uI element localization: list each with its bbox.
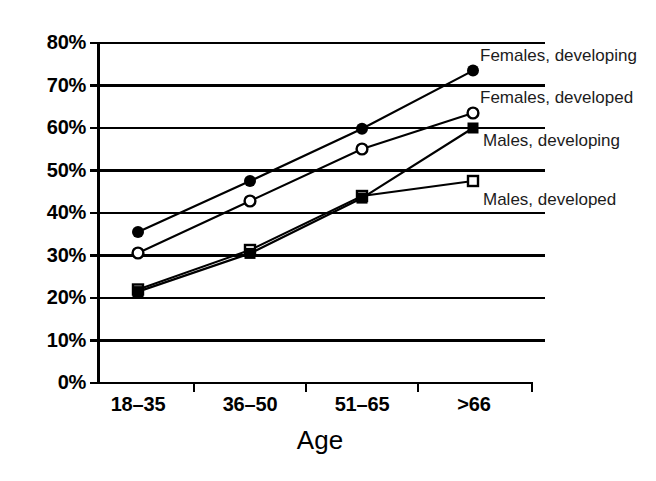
marker-filled-square: [133, 286, 144, 297]
marker-open-square: [468, 176, 478, 186]
series-label-females-developing: Females, developing: [480, 46, 637, 66]
marker-filled-square: [357, 193, 368, 204]
y-tick-label-20: 20%: [10, 286, 86, 309]
y-tick-label-0: 0%: [10, 371, 86, 394]
series-label-females-developed: Females, developed: [480, 88, 633, 108]
y-tick-label-60: 60%: [10, 116, 86, 139]
marker-filled-circle: [244, 175, 256, 187]
marker-open-circle: [468, 108, 479, 119]
marker-open-circle: [357, 144, 368, 155]
y-tick-label-80: 80%: [10, 31, 86, 54]
x-tick-marks: [194, 383, 418, 392]
marker-open-circle: [245, 196, 256, 207]
y-tick-label-40: 40%: [10, 201, 86, 224]
marker-open-circle: [133, 248, 144, 259]
y-tick-label-10: 10%: [10, 329, 86, 352]
x-tick-label-51-65: 51–65: [312, 393, 412, 416]
series-label-males-developing: Males, developing: [483, 131, 620, 151]
x-tick-label-18-35: 18–35: [88, 393, 188, 416]
series-label-males-developed: Males, developed: [483, 190, 616, 210]
marker-filled-circle: [132, 226, 144, 238]
x-axis-title: Age: [220, 425, 420, 456]
y-tick-label-30: 30%: [10, 244, 86, 267]
y-tick-label-70: 70%: [10, 74, 86, 97]
y-tick-marks: [90, 43, 98, 383]
marker-filled-circle: [467, 65, 479, 77]
y-tick-label-50: 50%: [10, 159, 86, 182]
marker-filled-square: [468, 123, 479, 134]
marker-filled-square: [245, 248, 256, 259]
series-females-developed: [133, 108, 479, 259]
marker-filled-circle: [356, 123, 368, 135]
gridlines: [98, 43, 545, 341]
x-tick-label-36-50: 36–50: [200, 393, 300, 416]
chart-figure: 80% 70% 60% 50% 40% 30% 20% 10% 0% 18–35…: [0, 0, 656, 481]
x-tick-label-over-66: >66: [424, 393, 524, 416]
